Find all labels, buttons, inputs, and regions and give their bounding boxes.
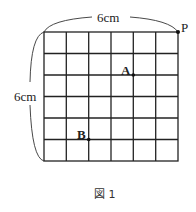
- point-a-label: A: [121, 64, 130, 77]
- point-b-label: B: [77, 128, 86, 141]
- point-p-label: P: [181, 21, 188, 34]
- point-p: [176, 30, 180, 34]
- left-dimension-label: 6cm: [14, 90, 36, 103]
- point-a: [132, 73, 136, 77]
- grid: [44, 32, 178, 161]
- top-dimension-label: 6cm: [97, 11, 119, 24]
- figure-caption: 図 1: [94, 189, 116, 200]
- point-b: [87, 138, 91, 142]
- grid-diagram: [0, 0, 196, 212]
